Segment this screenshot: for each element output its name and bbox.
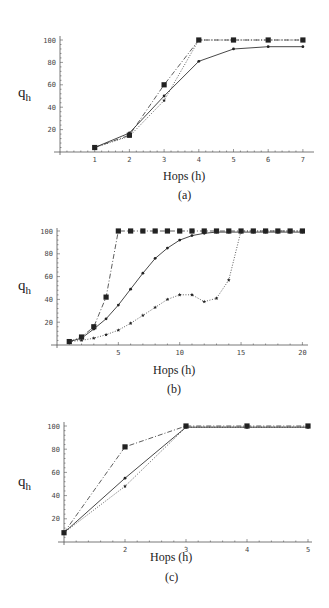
- star-marker: [104, 333, 108, 337]
- dot-marker: [166, 247, 169, 250]
- square-marker: [183, 423, 188, 428]
- square-marker: [162, 82, 167, 87]
- y-tick-label: 80: [45, 250, 53, 258]
- star-marker: [184, 425, 188, 429]
- dot-marker: [185, 426, 188, 429]
- dot-marker: [63, 531, 66, 534]
- dot-marker: [246, 426, 249, 429]
- star-marker: [80, 338, 84, 342]
- x-tick-label: 2: [127, 156, 131, 164]
- square-marker: [300, 228, 305, 233]
- star-marker: [116, 328, 120, 332]
- chart-a-y-axis-label: qh: [18, 84, 31, 103]
- series-line: [69, 231, 302, 342]
- square-marker: [189, 228, 194, 233]
- series-line: [64, 427, 308, 533]
- y-tick-label: 40: [45, 296, 53, 304]
- chart-b-caption: (b): [167, 382, 181, 397]
- square-marker: [116, 228, 121, 233]
- y-tick-label: 100: [40, 228, 53, 236]
- star-marker: [251, 229, 255, 233]
- chart-b-x-axis-label: Hops (h): [153, 363, 195, 378]
- chart-b-y-axis-label: qh: [18, 277, 31, 296]
- square-marker: [122, 444, 127, 449]
- dot-marker: [117, 304, 120, 307]
- dot-marker: [154, 257, 157, 260]
- x-tick-label: 6: [266, 156, 270, 164]
- square-marker: [288, 228, 293, 233]
- dot-marker: [141, 272, 144, 275]
- dot-marker: [163, 95, 166, 98]
- square-marker: [177, 228, 182, 233]
- chart-c-caption: (c): [165, 570, 178, 585]
- square-marker: [79, 334, 84, 339]
- x-tick-label: 2: [123, 546, 127, 554]
- series-line: [64, 426, 308, 533]
- x-tick-label: 3: [184, 546, 188, 554]
- star-marker: [190, 293, 194, 297]
- square-marker: [91, 324, 96, 329]
- dot-marker: [240, 231, 243, 234]
- dot-marker: [301, 231, 304, 234]
- dot-marker: [215, 231, 218, 234]
- square-marker: [251, 228, 256, 233]
- y-tick-label: 80: [48, 59, 56, 67]
- chart-c-y-axis-label: qh: [18, 473, 31, 492]
- square-marker: [153, 228, 158, 233]
- dot-marker: [92, 328, 95, 331]
- y-tick-label: 100: [47, 423, 60, 431]
- dot-marker: [203, 232, 206, 235]
- y-tick-label: 60: [48, 81, 56, 89]
- star-marker: [123, 484, 127, 488]
- dot-marker: [178, 239, 181, 242]
- star-marker: [245, 425, 249, 429]
- dot-marker: [124, 477, 127, 480]
- chart-a: 123456720406080100 qh Hops (h) (a): [0, 0, 329, 205]
- dot-marker: [307, 426, 310, 429]
- square-marker: [67, 339, 72, 344]
- star-marker: [306, 425, 310, 429]
- chart-c-x-axis-label: Hops (h): [150, 550, 192, 565]
- star-marker: [276, 229, 280, 233]
- x-tick-label: 20: [298, 349, 306, 357]
- x-tick-label: 4: [245, 546, 249, 554]
- square-marker: [61, 530, 66, 535]
- dot-marker: [276, 231, 279, 234]
- square-marker: [263, 228, 268, 233]
- y-tick-label: 20: [52, 515, 60, 523]
- x-tick-label: 10: [175, 349, 183, 357]
- dot-marker: [80, 337, 83, 340]
- dot-marker: [289, 231, 292, 234]
- square-marker: [244, 423, 249, 428]
- x-tick-label: 3: [162, 156, 166, 164]
- dot-marker: [191, 234, 194, 237]
- star-marker: [239, 229, 243, 233]
- series-line: [69, 232, 302, 342]
- star-marker: [202, 300, 206, 304]
- y-tick-label: 60: [45, 273, 53, 281]
- star-marker: [153, 305, 157, 309]
- star-marker: [301, 229, 305, 233]
- chart-a-x-axis-label: Hops (h): [163, 169, 205, 184]
- dot-marker: [129, 288, 132, 291]
- y-tick-label: 40: [48, 104, 56, 112]
- series-line: [64, 427, 308, 533]
- star-marker: [129, 321, 133, 325]
- star-marker: [215, 296, 219, 300]
- star-marker: [227, 278, 231, 282]
- square-marker: [275, 228, 280, 233]
- square-marker: [103, 295, 108, 300]
- dot-marker: [227, 231, 230, 234]
- square-marker: [128, 228, 133, 233]
- dot-marker: [105, 317, 108, 320]
- square-marker: [226, 228, 231, 233]
- dot-marker: [267, 45, 270, 48]
- dot-marker: [252, 231, 255, 234]
- x-tick-label: 5: [231, 156, 235, 164]
- x-tick-label: 15: [237, 349, 245, 357]
- star-marker: [62, 531, 66, 535]
- star-marker: [166, 297, 170, 301]
- y-tick-label: 40: [52, 492, 60, 500]
- square-marker: [305, 423, 310, 428]
- x-tick-label: 1: [93, 156, 97, 164]
